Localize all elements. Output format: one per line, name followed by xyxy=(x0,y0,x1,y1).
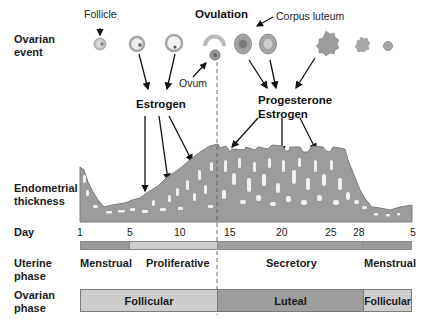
day-tick-10: 10 xyxy=(174,226,186,238)
ovulation-label: Ovulation xyxy=(195,8,248,20)
estrogen-label: Estrogen xyxy=(136,97,186,111)
progesterone-label: Progesterone xyxy=(258,93,332,107)
arrow-cl-to-progesterone-2 xyxy=(270,60,276,88)
uterine-bar-proliferative xyxy=(129,241,218,250)
uterine-phase-menstrual-next: Menstrual xyxy=(364,257,416,269)
ovarian-phase-luteal: Luteal xyxy=(217,289,364,312)
corpus-luteum-label: Corpus luteum xyxy=(276,10,344,22)
arrow-progesterone-to-endometrium-1 xyxy=(232,118,258,147)
ovarian-phase-follicular: Follicular xyxy=(80,289,218,312)
uterine-bar-secretory xyxy=(217,241,363,250)
uterine-phase-secretory: Secretory xyxy=(266,257,317,269)
arrow-estrogen-to-endometrium-3 xyxy=(169,116,192,161)
follicle-label: Follicle xyxy=(84,8,117,20)
ovarian-phase-follicular-next: Follicular xyxy=(363,289,412,312)
corpus-luteum-icon-2 xyxy=(260,34,277,54)
arrow-follicle-to-estrogen-2 xyxy=(167,54,175,89)
day-tick-20: 20 xyxy=(276,226,288,238)
corpus-luteum-pointer-arrow xyxy=(257,17,273,26)
ruptured-follicle-icon xyxy=(205,37,224,47)
arrow-follicle-to-estrogen-1 xyxy=(139,54,148,89)
day-tick-15: 15 xyxy=(224,226,236,238)
ovum-icon xyxy=(210,50,220,60)
follicle-icon-2 xyxy=(130,37,144,51)
corpus-luteum-icon-1 xyxy=(235,34,252,54)
uterine-phase-proliferative: Proliferative xyxy=(146,257,210,269)
diagram-artwork xyxy=(0,0,422,326)
arrow-progesterone-to-endometrium-3 xyxy=(300,118,316,150)
ovum-label: Ovum xyxy=(179,77,207,89)
day-tick-28: 28 xyxy=(353,226,365,238)
follicle-icon-1 xyxy=(94,38,106,50)
arrow-cl-to-progesterone-3 xyxy=(296,58,315,88)
uterine-bar-menstrual-next xyxy=(362,241,412,250)
day-tick-25: 25 xyxy=(325,226,337,238)
corpus-albicans-icon-2 xyxy=(355,37,370,52)
estrogen-secondary-label: Estrogen xyxy=(258,107,332,121)
day-tick-5-next: 5 xyxy=(410,226,416,238)
uterine-bar-menstrual xyxy=(80,241,130,250)
day-tick-5: 5 xyxy=(127,226,133,238)
corpus-albicans-icon-1 xyxy=(316,31,339,56)
progesterone-estrogen-label: Progesterone Estrogen xyxy=(258,93,332,121)
follicle-icon-3 xyxy=(166,35,182,51)
endometrium-illustration xyxy=(80,144,412,222)
ovum-pointer-arrow xyxy=(193,63,206,77)
arrow-cl-to-progesterone-1 xyxy=(249,60,267,88)
uterine-phase-menstrual: Menstrual xyxy=(80,257,132,269)
arrow-estrogen-to-endometrium-2 xyxy=(159,116,168,180)
corpus-albicans-icon-3 xyxy=(384,42,393,51)
day-tick-1: 1 xyxy=(77,226,83,238)
